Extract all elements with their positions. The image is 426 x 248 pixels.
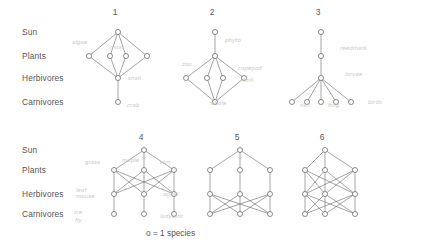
handwritten-annotation: grass — [85, 160, 100, 166]
trophic-level-label-plants: Plants — [22, 52, 46, 60]
species-node — [238, 148, 243, 153]
food-chain-link — [321, 78, 351, 102]
trophic-level-label-carnivores: Carnivores — [22, 210, 64, 218]
food-chain-link — [321, 78, 336, 102]
species-node — [268, 192, 273, 197]
food-web-figure: SunSunPlantsPlantsHerbivoresHerbivoresCa… — [0, 0, 426, 248]
species-node — [208, 192, 213, 197]
handwritten-annotation: frog — [328, 103, 339, 109]
species-node — [142, 192, 147, 197]
handwritten-annotation: aphid — [163, 192, 179, 198]
species-node — [108, 54, 113, 59]
handwritten-annotation: mouse — [76, 194, 95, 200]
species-node — [112, 212, 117, 217]
species-node — [208, 212, 213, 217]
food-chain-link — [292, 78, 321, 102]
species-node — [145, 54, 150, 59]
handwritten-annotation: fish — [300, 103, 310, 109]
species-node — [323, 168, 328, 173]
species-node — [116, 30, 121, 35]
species-node — [208, 168, 213, 173]
species-node — [116, 76, 121, 81]
species-node — [221, 76, 226, 81]
species-node — [268, 168, 273, 173]
species-node — [238, 212, 243, 217]
trophic-level-label-sun: Sun — [22, 146, 37, 154]
handwritten-annotation: moss — [110, 45, 125, 51]
handwritten-annotation: elm — [160, 160, 170, 166]
species-node — [238, 192, 243, 197]
trophic-level-label-plants: Plants — [22, 166, 46, 174]
panel-number-5: 5 — [227, 133, 247, 142]
handwritten-annotation: ladybird — [160, 214, 183, 220]
handwritten-annotation: algae — [72, 40, 87, 46]
species-node — [87, 54, 92, 59]
handwritten-annotation: krill — [243, 78, 253, 84]
panel-number-4: 4 — [131, 133, 151, 142]
species-node — [290, 100, 295, 105]
species-node — [172, 168, 177, 173]
handwritten-annotation: crab — [127, 103, 139, 109]
species-node — [303, 212, 308, 217]
panel-number-1: 1 — [105, 8, 125, 17]
food-web-graphs — [0, 0, 426, 248]
trophic-level-label-carnivores: Carnivores — [22, 98, 64, 106]
species-node — [238, 168, 243, 173]
species-node — [124, 54, 129, 59]
species-node — [112, 192, 117, 197]
panel-number-2: 2 — [202, 8, 222, 17]
species-node — [319, 100, 324, 105]
food-chain-link — [215, 78, 244, 102]
species-node — [184, 76, 189, 81]
species-node — [319, 54, 324, 59]
food-chain-link — [240, 150, 270, 170]
species-node — [142, 148, 147, 153]
trophic-level-label-sun: Sun — [22, 28, 37, 36]
species-node — [112, 168, 117, 173]
species-node — [142, 212, 147, 217]
trophic-level-label-herbivores: Herbivores — [22, 190, 64, 198]
trophic-level-label-herbivores: Herbivores — [22, 74, 64, 82]
species-node — [205, 76, 210, 81]
species-node — [323, 148, 328, 153]
handwritten-annotation: zoo — [182, 62, 192, 68]
species-node — [319, 76, 324, 81]
species-node — [213, 54, 218, 59]
species-node — [213, 30, 218, 35]
handwritten-annotation: ice — [74, 210, 82, 216]
species-node — [349, 100, 354, 105]
panel-number-6: 6 — [312, 133, 332, 142]
handwritten-annotation: copepod — [238, 66, 262, 72]
species-node — [323, 192, 328, 197]
handwritten-annotation: fly — [75, 218, 82, 224]
food-chain-link — [307, 78, 321, 102]
species-node — [303, 192, 308, 197]
species-node — [353, 192, 358, 197]
species-node — [268, 212, 273, 217]
species-node — [319, 30, 324, 35]
handwritten-annotation: phyto — [225, 38, 241, 44]
species-node — [116, 100, 121, 105]
species-node — [353, 168, 358, 173]
species-node — [353, 212, 358, 217]
panel-number-3: 3 — [308, 8, 328, 17]
handwritten-annotation: reedmark — [340, 46, 367, 52]
food-chain-link — [186, 78, 215, 102]
handwritten-annotation: larvae — [345, 72, 362, 78]
food-chain-link — [325, 150, 355, 170]
food-chain-link — [89, 56, 118, 78]
handwritten-annotation: whale — [210, 101, 226, 107]
species-node — [323, 212, 328, 217]
panel-6 — [303, 148, 358, 217]
panel-1 — [87, 30, 150, 105]
species-node — [142, 168, 147, 173]
handwritten-annotation: birds — [368, 100, 382, 106]
species-node — [303, 168, 308, 173]
legend-species-key: o = 1 species — [146, 229, 195, 237]
handwritten-annotation: snail — [128, 76, 141, 82]
panel-5 — [208, 148, 273, 217]
food-chain-link — [210, 150, 240, 170]
handwritten-annotation: maple — [122, 158, 139, 164]
panel-3 — [290, 30, 354, 105]
food-chain-link — [305, 150, 325, 170]
